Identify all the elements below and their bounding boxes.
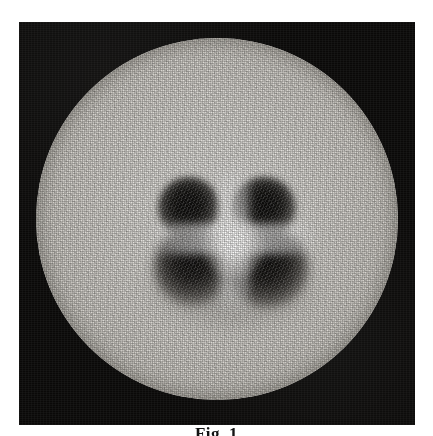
illuminated-disc (36, 38, 398, 400)
cross-center-highlight (204, 218, 264, 278)
figure-caption: Fig. 1 (0, 424, 433, 436)
figure-page: Fig. 1 (0, 0, 433, 436)
photographic-plate (19, 22, 415, 425)
